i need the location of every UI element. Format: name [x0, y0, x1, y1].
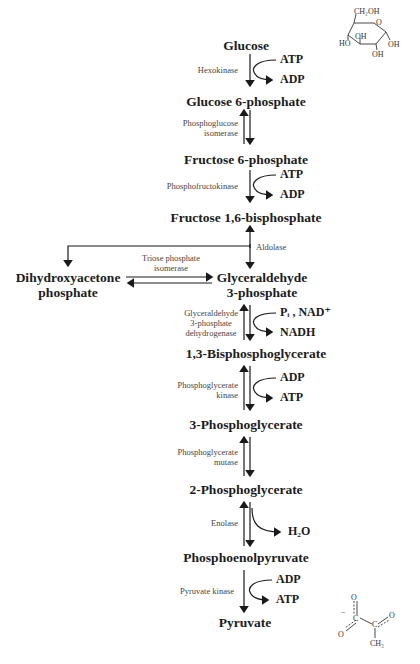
enzyme-enolase: Enolase: [211, 518, 238, 528]
enzyme-pgi-line1: Phosphoglucose: [183, 118, 238, 128]
enzyme-gapdh-line1: Glyceraldehyde: [184, 308, 238, 318]
metabolite-3-phosphoglycerate: 3-Phosphoglycerate: [189, 417, 302, 432]
glucose-oh-label-b: OH: [388, 41, 400, 49]
enzyme-gapdh: Glyceraldehyde 3-phosphate dehydrogenase: [184, 308, 238, 338]
cofactor-pgk-atp: ATP: [280, 391, 303, 404]
cofactor-gapdh-pi-nad: Pᵢ , NAD⁺: [280, 306, 331, 319]
pyruvate-ch3-label: CH₃: [370, 640, 384, 648]
enzyme-pyruvate-kinase: Pyruvate kinase: [180, 586, 234, 596]
glucose-ch2oh-label: CH₂OH: [354, 8, 379, 16]
metabolite-2-phosphoglycerate: 2-Phosphoglycerate: [189, 482, 302, 497]
enzyme-tpi-line1: Triose phosphate: [142, 253, 200, 263]
glucose-oh-label-c: OH: [372, 51, 384, 59]
glucose-ring-oxygen-label: O: [376, 19, 382, 27]
enzyme-phosphoglucose-isomerase: Phosphoglucose isomerase: [183, 118, 238, 138]
pyruvate-o-left-label: O: [338, 631, 344, 639]
enzyme-triose-phosphate-isomerase: Triose phosphate isomerase: [142, 253, 200, 273]
enzyme-phosphoglycerate-kinase: Phosphoglycerate kinase: [178, 380, 238, 400]
enzyme-phosphofructokinase: Phosphofructokinase: [167, 181, 238, 191]
enzyme-tpi-line2: isomerase: [142, 263, 200, 273]
enzyme-pgk-line2: kinase: [178, 390, 238, 400]
pyruvate-minus-label: −: [341, 609, 346, 617]
cofactor-enolase-water: H₂O: [288, 525, 310, 538]
enzyme-pgk-line1: Phosphoglycerate: [178, 380, 238, 390]
metabolite-g3p-line1: Glyceraldehyde: [217, 270, 308, 285]
cofactor-pgk-adp: ADP: [280, 371, 305, 384]
metabolite-glucose-6-phosphate: Glucose 6-phosphate: [186, 94, 306, 109]
metabolite-pyruvate: Pyruvate: [219, 615, 271, 630]
metabolite-phosphoenolpyruvate: Phosphoenolpyruvate: [183, 550, 308, 565]
metabolite-glucose: Glucose: [223, 38, 269, 53]
metabolite-dhap-line1: Dihydroxyacetone: [16, 270, 121, 285]
metabolite-dhap-line2: phosphate: [16, 285, 121, 300]
metabolite-1-3-bisphosphoglycerate: 1,3-Bisphosphoglycerate: [186, 346, 327, 361]
pyruvate-o-top-label: O: [351, 594, 357, 602]
metabolite-fructose-1-6-bisphosphate: Fructose 1,6-bisphosphate: [171, 210, 322, 225]
enzyme-hexokinase: Hexokinase: [198, 65, 238, 75]
pyruvate-o-right-label: O: [389, 612, 395, 620]
enzyme-pgi-line2: isomerase: [183, 128, 238, 138]
cofactor-pk-atp: ATP: [276, 593, 299, 606]
cofactor-pk-adp: ADP: [276, 573, 301, 586]
enzyme-pgm-line1: Phosphoglycerate: [178, 447, 238, 457]
enzyme-aldolase: Aldolase: [256, 242, 286, 252]
glucose-ho-label: HO: [339, 40, 351, 48]
metabolite-dhap: Dihydroxyacetone phosphate: [16, 270, 121, 300]
metabolite-glyceraldehyde-3-phosphate: Glyceraldehyde 3-phosphate: [217, 270, 308, 300]
cofactor-hexokinase-atp: ATP: [280, 53, 303, 66]
pyruvate-c2-label: C: [372, 621, 377, 629]
enzyme-phosphoglycerate-mutase: Phosphoglycerate mutase: [178, 447, 238, 467]
metabolite-fructose-6-phosphate: Fructose 6-phosphate: [184, 152, 308, 167]
enzyme-pgm-line2: mutase: [178, 457, 238, 467]
glucose-oh-label-a: OH: [355, 33, 367, 41]
metabolite-g3p-line2: 3-phosphate: [217, 285, 308, 300]
cofactor-gapdh-nadh: NADH: [280, 326, 315, 339]
cofactor-pfk-atp: ATP: [280, 168, 303, 181]
pyruvate-c1-label: C: [353, 615, 358, 623]
cofactor-pfk-adp: ADP: [280, 188, 305, 201]
cofactor-hexokinase-adp: ADP: [280, 73, 305, 86]
pyruvate-structure-icon: [345, 601, 389, 638]
enzyme-gapdh-line3: dehydrogenase: [184, 328, 238, 338]
enzyme-gapdh-line2: 3-phosphate: [184, 318, 238, 328]
